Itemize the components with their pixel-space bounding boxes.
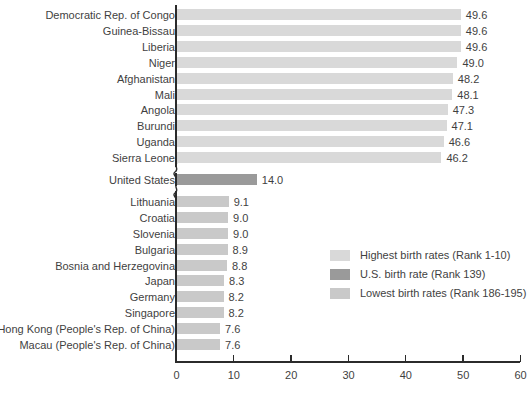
category-label: Mali (0, 90, 175, 101)
birth-rate-bar-chart: Democratic Rep. of Congo49.6Guinea-Bissa… (0, 0, 531, 395)
bar-value-label: 49.6 (466, 26, 487, 37)
bar-value-label: 7.6 (225, 340, 240, 351)
bar (177, 136, 444, 147)
axis-break-lower-icon (168, 184, 184, 198)
bar (177, 275, 225, 286)
legend-item: Lowest birth rates (Rank 186-195) (330, 284, 526, 303)
x-axis-tick-label: 50 (457, 370, 469, 381)
category-label: Afghanistan (0, 74, 175, 85)
bar (177, 9, 461, 20)
x-axis-tick-label: 10 (228, 370, 240, 381)
category-label: Lithuania (0, 197, 175, 208)
bar-value-label: 47.1 (452, 121, 473, 132)
category-label: Angola (0, 105, 175, 116)
category-label: Burundi (0, 121, 175, 132)
bar-value-label: 46.2 (446, 153, 467, 164)
legend-item: Highest birth rates (Rank 1-10) (330, 246, 526, 265)
category-label: Singapore (0, 308, 175, 319)
legend-swatch (330, 250, 350, 261)
bar (177, 152, 442, 163)
category-label: Hong Kong (People's Rep. of China) (0, 324, 175, 335)
legend: Highest birth rates (Rank 1-10)U.S. birt… (330, 246, 526, 303)
bar (177, 120, 447, 131)
category-label: Bulgaria (0, 245, 175, 256)
legend-label: U.S. birth rate (Rank 139) (360, 269, 485, 280)
legend-item: U.S. birth rate (Rank 139) (330, 265, 526, 284)
bar (177, 212, 229, 223)
x-axis-tick (233, 355, 235, 362)
bar-value-label: 8.3 (229, 276, 244, 287)
bar-value-label: 9.0 (233, 229, 248, 240)
bar (177, 57, 458, 68)
bar-value-label: 46.6 (449, 137, 470, 148)
category-label: Croatia (0, 213, 175, 224)
axis-break-upper-icon (168, 163, 184, 177)
legend-label: Lowest birth rates (Rank 186-195) (360, 288, 526, 299)
category-label: Liberia (0, 42, 175, 53)
x-axis-tick (520, 355, 522, 362)
bar (177, 323, 221, 334)
bar (177, 291, 224, 302)
category-label: Bosnia and Herzegovina (0, 261, 175, 272)
x-axis-tick (290, 355, 292, 362)
bar-value-label: 8.9 (233, 245, 248, 256)
bar (177, 339, 221, 350)
bar-value-label: 9.1 (234, 197, 249, 208)
bar-value-label: 49.6 (466, 10, 487, 21)
bar-value-label: 48.1 (457, 90, 478, 101)
bar (177, 244, 228, 255)
bar (177, 25, 461, 36)
bar (177, 196, 229, 207)
category-label: Sierra Leone (0, 153, 175, 164)
category-label: Uganda (0, 137, 175, 148)
category-label: United States (0, 175, 175, 186)
bar-value-label: 7.6 (225, 324, 240, 335)
bar-value-label: 49.0 (462, 58, 483, 69)
category-label: Germany (0, 292, 175, 303)
bar (177, 41, 461, 52)
legend-label: Highest birth rates (Rank 1-10) (360, 250, 510, 261)
bar-value-label: 47.3 (453, 105, 474, 116)
bar-value-label: 9.0 (233, 213, 248, 224)
x-axis-tick-label: 60 (514, 370, 526, 381)
x-axis-tick-label: 0 (173, 370, 179, 381)
bar-value-label: 14.0 (262, 175, 283, 186)
legend-swatch (330, 269, 350, 280)
x-axis-tick-label: 20 (285, 370, 297, 381)
bar (177, 174, 257, 185)
x-axis-tick (348, 355, 350, 362)
bar (177, 89, 453, 100)
x-axis-tick-label: 30 (342, 370, 354, 381)
bar (177, 104, 448, 115)
category-label: Niger (0, 58, 175, 69)
plot-area: Democratic Rep. of Congo49.6Guinea-Bissa… (0, 0, 531, 395)
x-axis-tick (462, 355, 464, 362)
bar-value-label: 8.8 (232, 261, 247, 272)
category-label: Japan (0, 276, 175, 287)
bar (177, 260, 227, 271)
category-label: Slovenia (0, 229, 175, 240)
bar-value-label: 8.2 (229, 308, 244, 319)
x-axis-tick (176, 355, 178, 362)
bar (177, 307, 224, 318)
x-axis-tick-label: 40 (400, 370, 412, 381)
bar (177, 73, 453, 84)
bar-value-label: 48.2 (458, 74, 479, 85)
category-label: Macau (People's Rep. of China) (0, 340, 175, 351)
x-axis-tick (405, 355, 407, 362)
bar-value-label: 49.6 (466, 42, 487, 53)
category-label: Democratic Rep. of Congo (0, 10, 175, 21)
bar (177, 228, 229, 239)
bar-value-label: 8.2 (229, 292, 244, 303)
category-label: Guinea-Bissau (0, 26, 175, 37)
legend-swatch (330, 288, 350, 299)
